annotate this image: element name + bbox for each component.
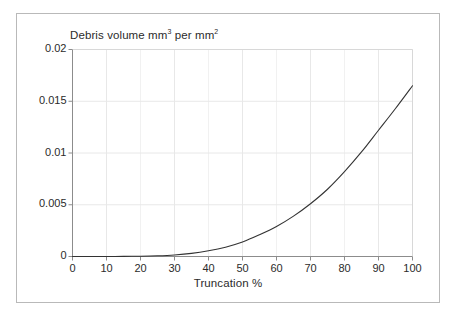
x-tick-label: 100 [393, 262, 433, 274]
y-tick-label: 0.01 [10, 146, 67, 158]
gridlines-group [73, 50, 413, 257]
chart-title-mid: per mm [171, 29, 214, 41]
chart-title: Debris volume mm3 per mm2 [70, 29, 218, 41]
x-axis-label: Truncation % [0, 277, 456, 289]
chart-title-main: Debris volume mm [70, 29, 167, 41]
y-tick-label: 0.005 [10, 197, 67, 209]
chart-title-superscript-2: 2 [214, 28, 218, 35]
tickmarks-group [69, 50, 413, 261]
figure-container: Debris volume mm3 per mm2 Truncation % 0… [0, 0, 456, 318]
y-tick-label: 0.015 [10, 94, 67, 106]
y-tick-label: 0 [10, 249, 67, 261]
y-tick-label: 0.02 [10, 42, 67, 54]
